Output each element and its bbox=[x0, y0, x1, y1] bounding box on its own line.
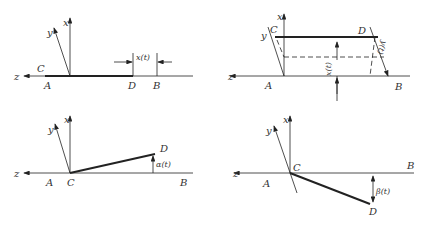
panel-2 bbox=[230, 14, 410, 101]
label-x: x bbox=[63, 17, 69, 28]
label-z: z bbox=[232, 168, 239, 179]
label-d: D bbox=[357, 25, 366, 36]
label-b: B bbox=[406, 160, 414, 171]
label-b: B bbox=[394, 81, 402, 92]
label-z: z bbox=[13, 168, 20, 179]
label-d: D bbox=[127, 80, 136, 91]
label-a: A bbox=[43, 80, 51, 91]
label-x: x bbox=[64, 114, 70, 125]
label-c: C bbox=[37, 63, 45, 74]
label-a: A bbox=[45, 177, 53, 188]
label-y: y bbox=[265, 125, 272, 136]
y-axis bbox=[54, 28, 70, 76]
label-b: B bbox=[179, 177, 187, 188]
label-x: x bbox=[277, 11, 283, 22]
label-b: B bbox=[152, 80, 160, 91]
label-c: C bbox=[67, 177, 75, 188]
label-y: y bbox=[47, 124, 54, 135]
label-param-x: x(t) bbox=[324, 62, 333, 76]
label-param-y: y(t) bbox=[375, 38, 389, 55]
label-z: z bbox=[13, 71, 20, 82]
label-z: z bbox=[227, 71, 234, 82]
label-a: A bbox=[264, 80, 272, 91]
diagram-canvas: z x y C A D B x(t) z x y C D A B x(t) y(… bbox=[0, 0, 426, 226]
label-y: y bbox=[260, 30, 267, 41]
label-y: y bbox=[46, 27, 53, 38]
label-param: β(t) bbox=[375, 187, 390, 196]
label-c: C bbox=[270, 24, 278, 35]
label-param: x(t) bbox=[136, 53, 150, 62]
label-d: D bbox=[159, 143, 168, 154]
label-param: α(t) bbox=[156, 160, 171, 169]
label-c: C bbox=[293, 162, 301, 173]
label-a: A bbox=[262, 178, 270, 189]
label-d: D bbox=[368, 206, 377, 217]
label-x: x bbox=[283, 114, 289, 125]
